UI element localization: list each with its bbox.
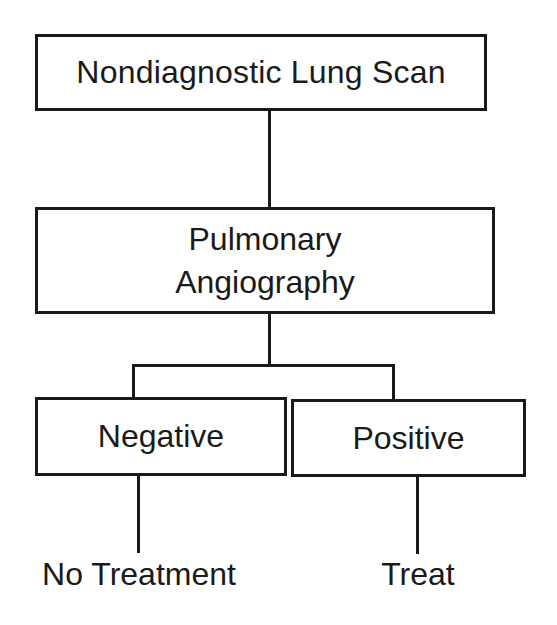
node-label: Negative — [98, 418, 224, 455]
outcome-treat: Treat — [370, 556, 466, 593]
node-label: Nondiagnostic Lung Scan — [76, 54, 445, 91]
connector-branch-to-positive — [392, 364, 395, 400]
connector-angiography-to-branch — [268, 313, 271, 367]
connector-root-to-angiography — [268, 110, 271, 208]
outcome-no-treatment: No Treatment — [24, 556, 254, 593]
node-label: Positive — [352, 420, 464, 457]
branch-bar — [132, 364, 395, 367]
node-label-line2: Angiography — [175, 261, 355, 304]
connector-negative-to-no-treatment — [137, 475, 140, 553]
node-label-line1: Pulmonary — [189, 218, 342, 261]
node-nondiagnostic-lung-scan: Nondiagnostic Lung Scan — [35, 34, 487, 111]
connector-positive-to-treat — [416, 476, 419, 554]
node-negative: Negative — [35, 397, 287, 476]
connector-branch-to-negative — [132, 364, 135, 398]
node-positive: Positive — [291, 399, 526, 477]
node-pulmonary-angiography: Pulmonary Angiography — [35, 207, 495, 314]
